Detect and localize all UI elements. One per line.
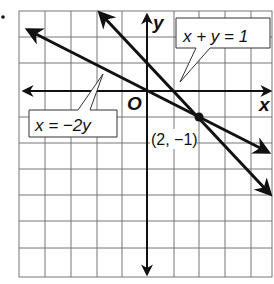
callout-eq2: x + y = 1: [176, 18, 270, 82]
eq1-label: x = −2y: [34, 116, 92, 135]
x-axis-label: x: [258, 94, 271, 115]
callout-eq1: x = −2y: [29, 74, 117, 137]
origin-label: O: [127, 93, 142, 114]
grid: [19, 11, 272, 277]
eq2-label: x + y = 1: [182, 27, 248, 46]
bullet-dot: [1, 15, 5, 19]
point-label: (2, −1): [151, 131, 198, 148]
y-axis-label: y: [152, 12, 165, 33]
coordinate-graph: x + y = 1 x = −2y (2, −1) y x O: [0, 0, 274, 284]
axes: [24, 15, 270, 274]
intersection-point: [195, 113, 204, 122]
